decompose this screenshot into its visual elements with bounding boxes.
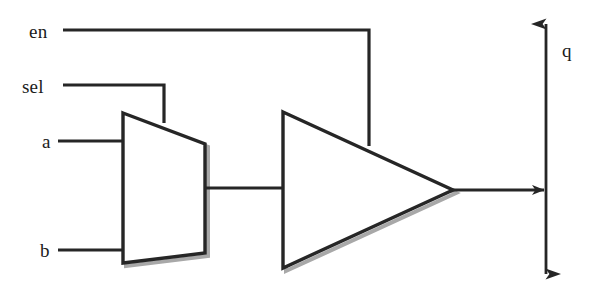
signal-label-en: en (29, 22, 47, 41)
signal-label-sel: sel (22, 77, 44, 96)
signal-label-b: b (40, 241, 50, 260)
schematic-canvas: en sel a b q (0, 0, 595, 293)
sel-wire (63, 85, 164, 123)
multiplexer-body (123, 113, 205, 263)
signal-label-q: q (562, 41, 572, 60)
signal-label-a: a (42, 132, 51, 151)
circuit-diagram (0, 0, 595, 293)
